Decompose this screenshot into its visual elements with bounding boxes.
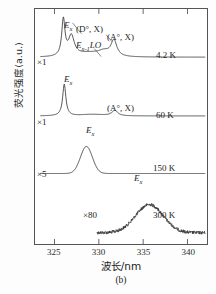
peak-label-acceptor-bound-exciton-4.2k: (A°, X) [107, 33, 134, 42]
peak-label-phonon-replica: Ex-1LO [76, 41, 101, 52]
plot-area: ×1 4.2 K Ex (D°, X) (A°, X) Ex-1LO ×1 60… [34, 8, 208, 245]
spectra-svg [35, 9, 207, 244]
x-tick-330: 330 [86, 247, 112, 257]
x-tick-325: 325 [41, 247, 67, 257]
peak-label-ex-4.2k: Ex [64, 21, 72, 32]
scale-label-300k: ×80 [83, 211, 97, 220]
scale-label-4.2k: ×1 [37, 58, 47, 67]
peak-label-ex-150k: Ex [86, 126, 94, 137]
scale-label-60k: ×1 [37, 118, 47, 127]
temperature-label-300k: 300 K [153, 211, 175, 220]
x-tick-340: 340 [175, 247, 201, 257]
peak-label-ex-60k: Ex [64, 75, 72, 86]
x-tick-335: 335 [130, 247, 156, 257]
scale-label-150k: ×5 [37, 170, 47, 179]
peak-label-ex-300k: Ex [134, 174, 142, 185]
temperature-label-150k: 150 K [153, 164, 175, 173]
temperature-label-4.2k: 4.2 K [156, 51, 176, 60]
spectrum-curve-150k [40, 146, 205, 173]
peak-label-acceptor-bound-exciton-60k: (A°, X) [107, 104, 134, 113]
spectrum-curve-300k [97, 203, 205, 234]
x-axis-label: 波长/nm [34, 258, 208, 273]
peak-label-donor-bound-exciton: (D°, X) [76, 25, 103, 34]
photoluminescence-figure: 荧光强度(a.u.) ×1 4.2 K Ex (D°, X) (A°, X) E… [0, 0, 216, 294]
panel-caption: (b) [34, 275, 208, 285]
y-axis-label: 荧光强度(a.u.) [11, 10, 29, 140]
temperature-label-60k: 60 K [156, 111, 174, 120]
